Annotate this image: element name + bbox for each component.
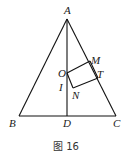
label-C: C [113, 117, 121, 129]
label-D: D [62, 117, 71, 129]
geometry-figure: A B C D O M T N I 图 16 [0, 0, 128, 156]
label-A: A [63, 4, 71, 16]
label-I: I [58, 81, 64, 93]
figure-caption: 图 16 [53, 141, 79, 152]
label-O: O [58, 67, 66, 79]
label-N: N [71, 89, 80, 101]
segment-NO [67, 73, 73, 88]
label-M: M [90, 54, 101, 66]
segment-AC [67, 19, 116, 116]
label-T: T [97, 68, 104, 80]
segment-TN [73, 78, 98, 88]
segment-OM [67, 61, 90, 73]
label-B: B [9, 117, 16, 129]
